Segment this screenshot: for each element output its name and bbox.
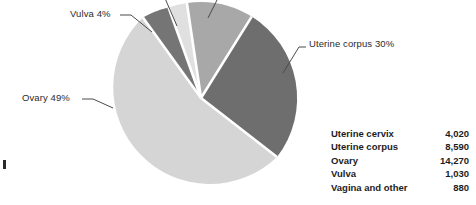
data-table-body: Uterine cervix 4,020 Uterine corpus 8,59… [331, 128, 469, 195]
table-cell-value: 880 [431, 182, 469, 195]
leader-line-ovary [82, 99, 113, 108]
table-cell-value: 8,590 [431, 141, 469, 154]
table-cell-label: Ovary [331, 155, 431, 168]
data-table: Uterine cervix 4,020 Uterine corpus 8,59… [331, 128, 469, 195]
table-row: Vulva 1,030 [331, 168, 469, 181]
table-row: Ovary 14,270 [331, 155, 469, 168]
pie-label-uterine-corpus: Uterine corpus 30% [309, 38, 394, 49]
page-edge-mark [3, 160, 6, 169]
table-cell-value: 1,030 [431, 168, 469, 181]
pie-label-vulva: Vulva 4% [70, 8, 111, 19]
table-cell-value: 14,270 [431, 155, 469, 168]
table-row: Vagina and other 880 [331, 182, 469, 195]
pie-chart-figure: Uterine corpus 30% Ovary 49% Vulva 4% Ut… [0, 0, 476, 205]
table-cell-label: Vulva [331, 168, 431, 181]
table-cell-label: Uterine cervix [331, 128, 431, 141]
table-row: Uterine corpus 8,590 [331, 141, 469, 154]
table-cell-label: Vagina and other [331, 182, 431, 195]
table-cell-value: 4,020 [431, 128, 469, 141]
table-row: Uterine cervix 4,020 [331, 128, 469, 141]
table-cell-label: Uterine corpus [331, 141, 431, 154]
pie-label-ovary: Ovary 49% [22, 92, 70, 103]
